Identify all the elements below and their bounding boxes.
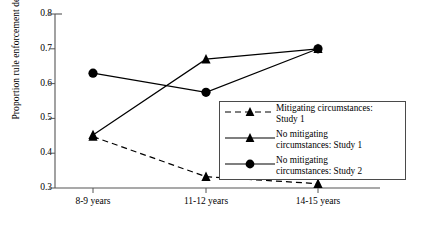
legend-swatch-no-mitigating-study-2	[225, 158, 275, 170]
legend-label-line: No mitigating	[276, 155, 404, 166]
legend-swatch-no-mitigating-study-1	[225, 132, 275, 144]
figure-chart: Proportion rule enforcement decisions 0.…	[0, 0, 424, 244]
data-point-marker	[88, 69, 97, 78]
data-point-marker	[201, 172, 210, 181]
legend-label-line: circumstances: Study 1	[276, 140, 404, 151]
legend-label-mitigating-study-1: Mitigating circumstances: Study 1	[276, 103, 404, 124]
legend-label-line: Mitigating circumstances:	[276, 103, 404, 114]
legend-swatch-mitigating-study-1	[225, 106, 275, 118]
legend-label-line: circumstances: Study 2	[276, 166, 404, 177]
legend-label-no-mitigating-study-1: No mitigating circumstances: Study 1	[276, 129, 404, 150]
legend-label-line: No mitigating	[276, 129, 404, 140]
legend-label-no-mitigating-study-2: No mitigating circumstances: Study 2	[276, 155, 404, 176]
chart-legend: Mitigating circumstances: Study 1 No mit…	[219, 101, 406, 180]
legend-label-line: Study 1	[276, 114, 404, 125]
data-point-marker	[201, 88, 210, 97]
